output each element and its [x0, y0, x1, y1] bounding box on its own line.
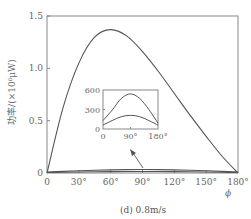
y-tick-label: 0	[37, 168, 43, 178]
x-tick-label: 150°	[195, 177, 217, 187]
y-axis-label: 功率/(×10⁶μW)	[6, 59, 17, 125]
x-tick-label: 180°	[227, 177, 249, 187]
inset-y-tick-label: 600	[85, 86, 100, 95]
x-tick-label: 0	[44, 177, 50, 187]
x-tick-label: 90°	[135, 177, 151, 187]
y-tick-label: 0.5	[29, 116, 44, 126]
y-tick-label: 1.0	[29, 63, 44, 73]
inset-x-tick-label: 90°	[123, 132, 137, 141]
power-chart: 功率/(×10⁶μW) 00.51.01.5 030°60°90°120°150…	[0, 0, 251, 219]
x-tick-label: 30°	[71, 177, 87, 187]
chart-caption: (d) 0.8m/s	[120, 205, 167, 215]
inset-chart: 0300600090°180°	[85, 86, 168, 141]
x-tick-label: 120°	[163, 177, 185, 187]
inset-y-tick-label: 0	[95, 125, 100, 134]
y-tick-label: 1.5	[29, 11, 44, 21]
arrow-annotation	[130, 149, 143, 168]
inset-x-tick-label: 180°	[148, 132, 167, 141]
x-tick-label: 60°	[103, 177, 119, 187]
inset-frame	[103, 90, 158, 129]
x-axis-label: ϕ	[225, 188, 231, 198]
inset-y-tick-label: 300	[85, 106, 100, 115]
inset-x-tick-label: 0	[100, 132, 105, 141]
